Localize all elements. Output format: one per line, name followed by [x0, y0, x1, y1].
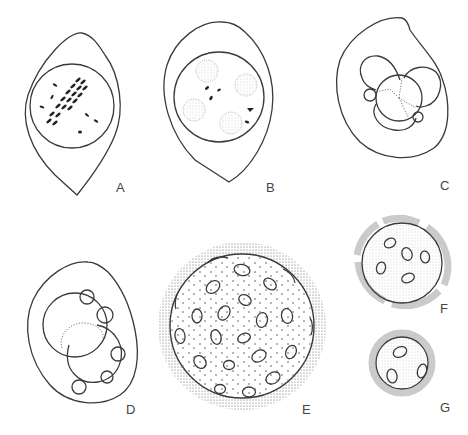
panel-label-f: F	[440, 301, 448, 316]
spheres	[43, 290, 125, 394]
panel-a: A	[25, 33, 125, 195]
panel-label-d: D	[126, 402, 135, 417]
panel-label-g: G	[440, 400, 450, 415]
panel-b: B	[164, 22, 275, 195]
panel-label-a: A	[116, 180, 125, 195]
panel-c: C	[337, 18, 450, 193]
cell-outline	[337, 18, 448, 158]
lobes	[360, 56, 440, 130]
panel-g: G	[372, 333, 450, 415]
panel-label-b: B	[266, 180, 275, 195]
chromosomes	[39, 77, 98, 134]
panel-d: D	[28, 262, 138, 417]
cell-body	[362, 223, 442, 303]
cell-body	[376, 337, 428, 389]
figure-canvas: A B	[0, 0, 468, 435]
cell-outline	[164, 22, 273, 182]
panel-e: E	[158, 242, 326, 417]
nucleus	[174, 52, 264, 142]
panel-label-e: E	[302, 402, 311, 417]
panel-f: F	[357, 218, 448, 316]
panel-label-c: C	[440, 178, 449, 193]
cell-outline	[25, 33, 120, 195]
